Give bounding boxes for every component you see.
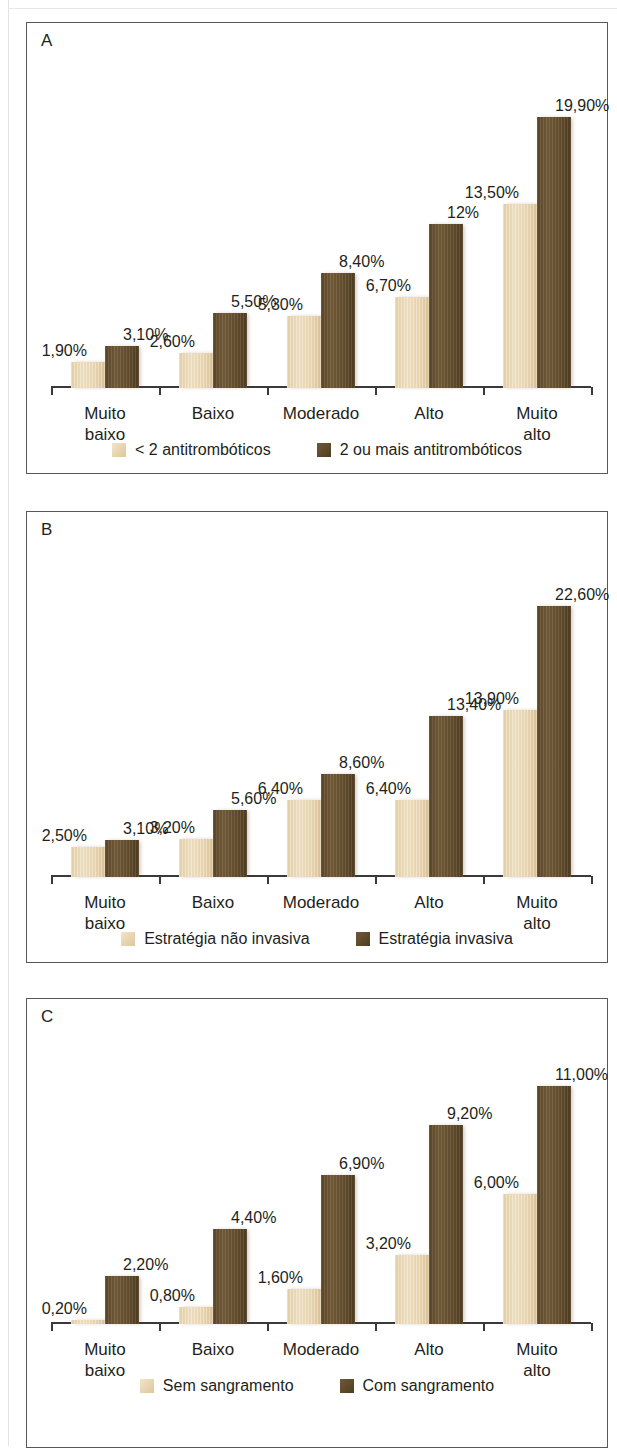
category-label: Muito alto [510, 892, 564, 934]
bar-wrapper: 5,60% [213, 810, 247, 877]
category-label: Baixo [192, 892, 235, 913]
bar-value-label: 2,50% [42, 828, 87, 844]
category-label: Muito alto [510, 403, 564, 445]
axis-tick [483, 1323, 485, 1331]
bar-light: 13,90% [503, 710, 537, 877]
legend-item[interactable]: Com sangramento [340, 1377, 495, 1395]
bar-value-label: 19,90% [555, 98, 609, 114]
bar-value-label: 6,40% [258, 781, 303, 797]
bar-dark: 6,90% [321, 1175, 355, 1325]
bar-light: 13,50% [503, 204, 537, 388]
bar-dark: 3,10% [105, 840, 139, 877]
bar-group: 3,20%5,60% [159, 810, 267, 877]
chart-panel-b: B 2,50%3,10%3,20%5,60%6,40%8,60%6,40%13,… [26, 511, 608, 963]
bar-value-label: 1,90% [42, 343, 87, 359]
category-label: Moderado [283, 1339, 360, 1360]
bar-wrapper: 12% [429, 224, 463, 388]
bar-value-label: 12% [447, 205, 479, 221]
bar-group: 0,20%2,20% [51, 1276, 159, 1324]
axis-tick [267, 387, 269, 395]
legend-swatch-light [112, 443, 126, 457]
plot-area-c: 0,20%2,20%0,80%4,40%1,60%6,90%3,20%9,20%… [51, 1019, 591, 1324]
category-label: Muito alto [510, 1339, 564, 1381]
bar-light: 0,80% [179, 1307, 213, 1324]
legend-item[interactable]: Estratégia não invasiva [121, 930, 309, 948]
category-label: Baixo [192, 1339, 235, 1360]
bar-wrapper: 2,20% [105, 1276, 139, 1324]
bar-wrapper: 0,80% [179, 1307, 213, 1324]
legend-item[interactable]: < 2 antitrombóticos [112, 441, 271, 459]
page-edge-left [8, 0, 9, 1446]
bar-light: 2,60% [179, 353, 213, 388]
bars-container-c: 0,20%2,20%0,80%4,40%1,60%6,90%3,20%9,20%… [51, 1019, 591, 1324]
bar-wrapper: 11,00% [537, 1086, 571, 1324]
legend-label: < 2 antitrombóticos [135, 441, 271, 459]
plot-area-a: 1,90%3,10%2,60%5,50%5,30%8,40%6,70%12%13… [51, 43, 591, 388]
legend-swatch-light [140, 1379, 154, 1393]
bar-group: 6,40%13,40% [375, 716, 483, 877]
axis-tick [483, 387, 485, 395]
axis-tick [51, 876, 53, 884]
bar-dark: 9,20% [429, 1125, 463, 1324]
bar-light: 5,30% [287, 316, 321, 388]
bar-group: 13,50%19,90% [483, 117, 591, 388]
axis-tick [267, 1323, 269, 1331]
bar-value-label: 1,60% [258, 1270, 303, 1286]
bar-wrapper: 8,60% [321, 774, 355, 877]
bar-group: 2,60%5,50% [159, 313, 267, 388]
bar-value-label: 6,40% [366, 781, 411, 797]
axis-tick [591, 387, 593, 395]
bar-wrapper: 13,40% [429, 716, 463, 877]
bar-value-label: 2,60% [150, 334, 195, 350]
category-label: Moderado [283, 892, 360, 913]
bar-dark: 3,10% [105, 346, 139, 388]
bar-wrapper: 6,00% [503, 1194, 537, 1324]
bar-value-label: 11,00% [555, 1067, 608, 1083]
bar-group: 6,70%12% [375, 224, 483, 388]
bar-wrapper: 19,90% [537, 117, 571, 388]
bar-wrapper: 1,90% [71, 362, 105, 388]
category-label: Muito baixo [84, 892, 126, 934]
bar-wrapper: 13,50% [503, 204, 537, 388]
axis-tick [483, 876, 485, 884]
bar-group: 1,60%6,90% [267, 1175, 375, 1325]
bars-container-b: 2,50%3,10%3,20%5,60%6,40%8,60%6,40%13,40… [51, 532, 591, 877]
bar-light: 2,50% [71, 847, 105, 877]
legend-label: Estratégia invasiva [379, 930, 513, 948]
bar-wrapper: 6,40% [395, 800, 429, 877]
bar-wrapper: 3,20% [179, 839, 213, 877]
legend-swatch-light [121, 932, 135, 946]
bar-value-label: 3,20% [150, 820, 195, 836]
bar-wrapper: 3,10% [105, 840, 139, 877]
chart-panel-c: C 0,20%2,20%0,80%4,40%1,60%6,90%3,20%9,2… [26, 998, 608, 1448]
bar-wrapper: 6,90% [321, 1175, 355, 1325]
legend-item[interactable]: Sem sangramento [140, 1377, 294, 1395]
bar-group: 5,30%8,40% [267, 273, 375, 388]
bar-wrapper: 4,40% [213, 1229, 247, 1324]
bar-value-label: 5,30% [258, 297, 303, 313]
bar-wrapper: 22,60% [537, 606, 571, 877]
legend-label: Com sangramento [363, 1377, 495, 1395]
axis-tick [591, 876, 593, 884]
legend-label: Estratégia não invasiva [144, 930, 309, 948]
bar-dark: 19,90% [537, 117, 571, 388]
legend-swatch-dark [317, 443, 331, 457]
bar-wrapper: 13,90% [503, 710, 537, 877]
bar-group: 6,00%11,00% [483, 1086, 591, 1324]
axis-tick [375, 876, 377, 884]
legend-item[interactable]: 2 ou mais antitrombóticos [317, 441, 522, 459]
legend-swatch-dark [356, 932, 370, 946]
category-label: Alto [414, 1339, 443, 1360]
bar-value-label: 3,20% [366, 1236, 411, 1252]
legend-item[interactable]: Estratégia invasiva [356, 930, 513, 948]
bar-wrapper: 1,60% [287, 1289, 321, 1324]
axis-tick [159, 387, 161, 395]
bar-group: 2,50%3,10% [51, 840, 159, 877]
category-label: Alto [414, 403, 443, 424]
axis-tick [51, 1323, 53, 1331]
bar-dark: 2,20% [105, 1276, 139, 1324]
page-edge-top [8, 8, 617, 9]
bar-value-label: 13,50% [465, 185, 519, 201]
bar-wrapper: 2,60% [179, 353, 213, 388]
category-label: Muito baixo [84, 1339, 126, 1381]
